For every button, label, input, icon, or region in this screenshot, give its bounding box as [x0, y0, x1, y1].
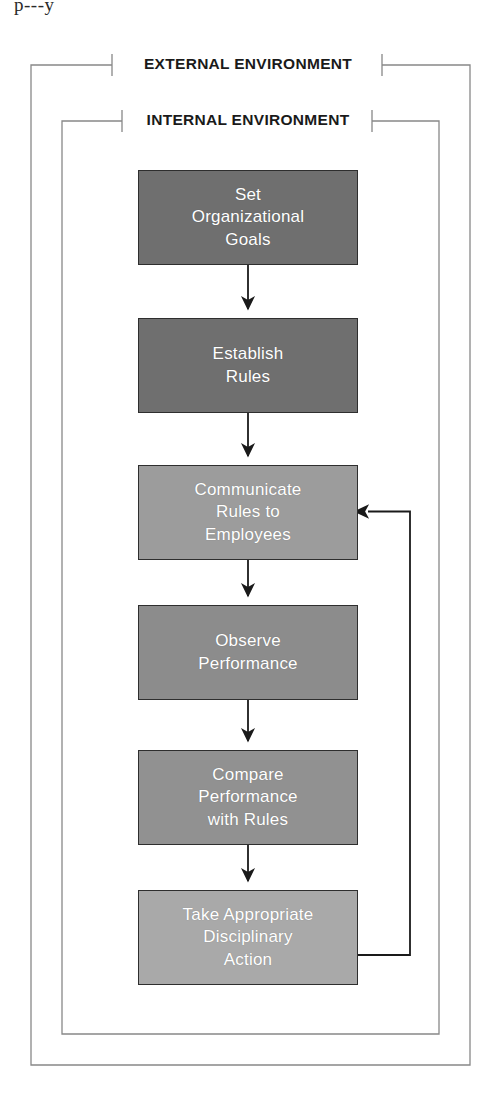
- flow-node-label: Establish Rules: [205, 343, 292, 388]
- flow-node-label: Communicate Rules to Employees: [186, 479, 309, 546]
- flow-node-label: Observe Performance: [190, 630, 306, 675]
- internal-environment-label: INTERNAL ENVIRONMENT: [0, 111, 496, 129]
- flow-node-take-appropriate-disciplinary-action[interactable]: Take Appropriate Disciplinary Action: [138, 890, 358, 985]
- flow-node-observe-performance[interactable]: Observe Performance: [138, 605, 358, 700]
- flow-node-label: Set Organizational Goals: [184, 184, 312, 251]
- flow-node-label: Compare Performance with Rules: [190, 764, 306, 831]
- flow-node-compare-performance-with-rules[interactable]: Compare Performance with Rules: [138, 750, 358, 845]
- flow-node-label: Take Appropriate Disciplinary Action: [175, 904, 322, 971]
- flow-node-communicate-rules-to-employees[interactable]: Communicate Rules to Employees: [138, 465, 358, 560]
- external-environment-label: EXTERNAL ENVIRONMENT: [0, 55, 496, 73]
- flow-node-establish-rules[interactable]: Establish Rules: [138, 318, 358, 413]
- flowchart-page: p---y EXTERNAL ENVIRONMENT INTERNAL ENVI…: [0, 0, 496, 1116]
- flow-node-set-organizational-goals[interactable]: Set Organizational Goals: [138, 170, 358, 265]
